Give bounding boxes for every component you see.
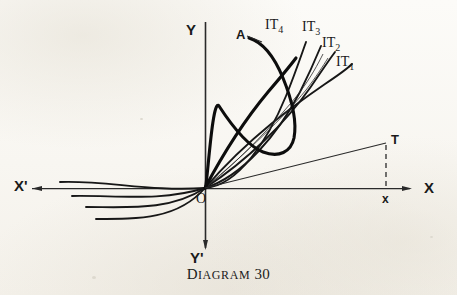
- curve-label-it2-subscript: 2: [335, 42, 340, 53]
- curve-label-it3-subscript: 3: [315, 26, 320, 37]
- x-axis-left-arrow: [32, 186, 42, 191]
- origin-label: O: [196, 192, 206, 206]
- axis-group: [32, 22, 412, 250]
- curve-label-it4-text: IT: [265, 17, 278, 32]
- caption-number: 30: [254, 266, 270, 282]
- curve-label-it2-text: IT: [322, 35, 335, 50]
- curve-label-it1: IT1: [336, 55, 354, 72]
- curve-label-it3-text: IT: [302, 19, 315, 34]
- figure-caption: DIAGRAM 30: [0, 266, 457, 283]
- point-label-x-foot: x: [382, 193, 389, 205]
- axis-label-x-negative: X': [14, 178, 28, 193]
- curve-label-it4-subscript: 4: [278, 24, 283, 35]
- x-axis-right-arrow: [402, 186, 412, 191]
- curve-label-it1-text: IT: [336, 54, 349, 69]
- curve-label-it3: IT3: [302, 20, 320, 37]
- curve-it1: [96, 64, 352, 219]
- curve-label-it2: IT2: [322, 36, 340, 53]
- curve-label-it4: IT4: [265, 18, 283, 35]
- caption-word-rest: IAGRAM: [198, 268, 250, 282]
- curve-label-it1-subscript: 1: [349, 61, 354, 72]
- diagram-page: X' X Y Y' O A IT4 IT3 IT2 IT1 T x DIAGRA…: [0, 0, 457, 295]
- point-label-t: T: [391, 133, 399, 146]
- curve-it4: [60, 42, 306, 189]
- caption-word-initial: D: [187, 266, 198, 282]
- axis-label-y-positive: Y: [186, 22, 196, 37]
- y-axis-bottom-arrow: [203, 240, 208, 250]
- diagram-figure: [0, 0, 457, 295]
- line-ot: [205, 143, 386, 188]
- curve-label-a: A: [236, 28, 245, 41]
- axis-label-y-negative: Y': [190, 250, 204, 265]
- axis-label-x-positive: X: [424, 180, 434, 195]
